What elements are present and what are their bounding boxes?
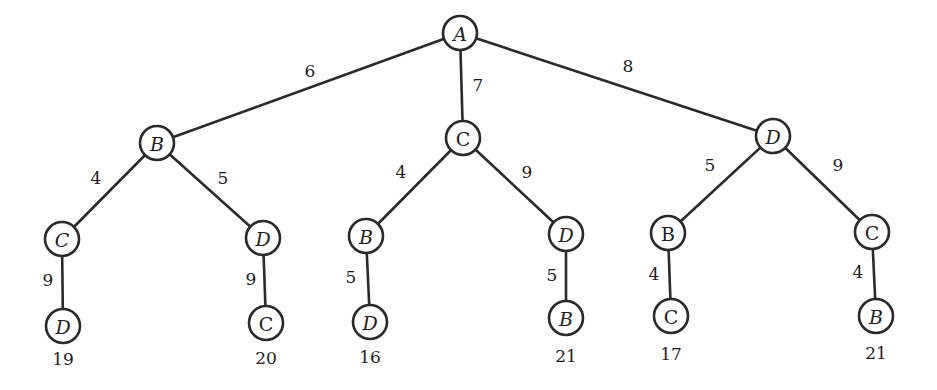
edges-layer [62,33,876,326]
node-c: C [446,121,480,155]
edge-weights-layer: 678454959995544 [43,56,864,290]
path-total-label: 19 [52,349,74,369]
node-label: D [361,312,377,334]
node-b: B [651,216,685,250]
edge-weight-label: 8 [623,56,634,76]
node-d: D [353,305,387,339]
node-label: C [55,229,70,251]
nodes-layer: ABCDCDBDBCDCDBCB [45,16,893,343]
node-label: C [456,128,471,150]
node-label: B [358,226,373,248]
path-total-label: 21 [865,343,887,363]
node-b: B [549,301,583,335]
edge-weight-label: 5 [705,155,716,175]
node-label: A [451,23,467,45]
weighted-tree-diagram: 678454959995544 ABCDCDBDBCDCDBCB 1920162… [0,0,937,390]
edge-d-c [773,136,872,232]
edge-weight-label: 9 [43,270,54,290]
edge-b-d [157,143,263,238]
edge-weight-label: 7 [473,75,484,95]
node-b: B [349,219,383,253]
node-label: C [865,222,880,244]
node-c: C [654,299,688,333]
node-label: C [664,306,679,328]
edge-weight-label: 4 [396,162,407,182]
edge-weight-label: 4 [853,262,864,282]
edge-weight-label: 9 [246,269,257,289]
tree-canvas: 678454959995544 ABCDCDBDBCDCDBCB 1920162… [0,0,937,390]
node-a: A [443,16,477,50]
node-label: D [254,228,270,250]
node-d: D [549,217,583,251]
node-label: D [54,316,70,338]
path-total-label: 17 [660,344,682,364]
node-label: C [259,313,274,335]
edge-a-b [157,33,460,143]
edge-weight-label: 5 [346,267,357,287]
node-label: D [764,126,780,148]
edge-weight-label: 5 [218,168,229,188]
node-label: B [868,306,883,328]
node-d: D [756,119,790,153]
node-d: D [246,221,280,255]
node-b: B [140,126,174,160]
node-label: B [558,308,573,330]
edge-weight-label: 5 [547,265,558,285]
node-c: C [855,215,889,249]
path-total-label: 21 [555,346,577,366]
edge-weight-label: 9 [833,155,844,175]
node-b: B [859,299,893,333]
node-d: D [46,309,80,343]
node-label: B [149,133,164,155]
edge-weight-label: 6 [305,61,316,81]
edge-d-b [668,136,773,233]
node-label: B [661,223,675,245]
node-c: C [45,222,79,256]
path-total-label: 16 [359,347,381,367]
node-c: C [249,306,283,340]
path-totals-layer: 192016211721 [52,343,887,369]
edge-weight-label: 9 [522,162,533,182]
edge-b-c [62,143,157,239]
node-label: D [557,224,573,246]
edge-c-d [463,138,566,234]
edge-a-d [460,33,773,136]
edge-c-b [366,138,463,236]
edge-weight-label: 4 [649,264,660,284]
path-total-label: 20 [255,348,277,368]
edge-weight-label: 4 [91,168,102,188]
